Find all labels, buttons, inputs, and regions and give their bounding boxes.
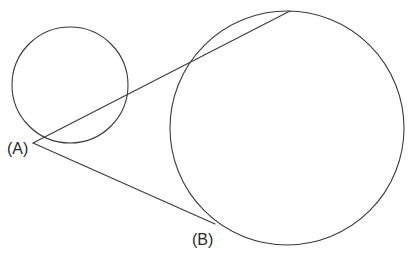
point-label-b: (B): [192, 232, 213, 248]
figure-background: [0, 0, 413, 260]
point-label-a: (A): [7, 141, 28, 157]
geometry-figure: (A) (B): [0, 0, 413, 260]
diagram-canvas: [0, 0, 413, 260]
